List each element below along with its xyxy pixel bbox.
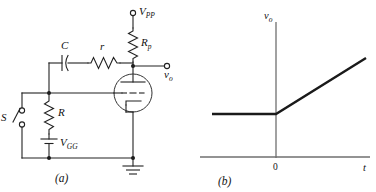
y-axis-label: vo: [264, 10, 273, 24]
figure-root: VPP Rp C r R VGG S vo (a) vo t 0 (b): [0, 0, 376, 192]
label-c: C: [61, 39, 69, 51]
label-r-grid: R: [57, 106, 65, 118]
tube-cathode-bar: [126, 101, 141, 105]
origin-tick-label: 0: [273, 162, 278, 172]
vpp-terminal-icon: [130, 10, 135, 15]
switch-contact-bottom-icon: [19, 122, 24, 127]
label-rp: Rp: [140, 36, 152, 51]
output-waveform-trace: [212, 58, 366, 114]
caption-panel-a: (a): [55, 172, 69, 185]
caption-panel-b: (b): [218, 175, 232, 188]
series-resistor-symbol: [88, 58, 120, 69]
label-vo-output: vo: [164, 68, 173, 83]
grid-resistor-symbol: [45, 93, 54, 134]
label-vpp: VPP: [139, 5, 155, 20]
label-switch: S: [1, 111, 7, 123]
panel-b-graph: vo t 0 (b): [188, 0, 376, 192]
label-vgg: VGG: [60, 136, 78, 151]
plate-resistor-symbol: [129, 28, 138, 62]
panel-a-circuit: VPP Rp C r R VGG S vo (a): [0, 0, 188, 192]
battery-rail-node-dot: [47, 156, 51, 160]
x-axis-label: t: [363, 162, 367, 173]
label-r-series: r: [100, 40, 105, 52]
switch-blade: [13, 109, 20, 123]
